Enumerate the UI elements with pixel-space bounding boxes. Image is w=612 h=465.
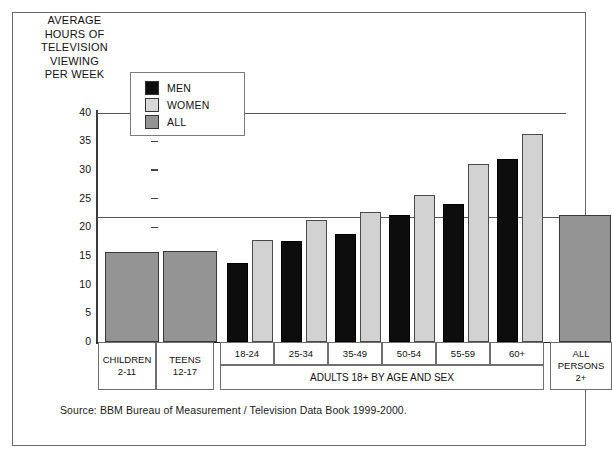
cat-children-line: 2-11 (118, 366, 136, 378)
y-tick-label: 0 (58, 335, 91, 347)
bar-all-teens (163, 251, 217, 342)
legend-label-all: ALL (167, 116, 186, 128)
plot-area (97, 113, 566, 342)
cat-all-persons-line: PERSONS (558, 360, 604, 372)
bar-men-a1824 (227, 263, 248, 342)
y-tick-label: 15 (58, 249, 91, 261)
cat-all-persons: ALLPERSONS2+ (550, 342, 612, 390)
y-tick-label: 10 (58, 278, 91, 290)
legend-swatch-women-icon (145, 98, 159, 112)
cat-all-persons-line: ALL (573, 348, 590, 360)
cat-teens-line: 12-17 (173, 366, 197, 378)
cat-children: CHILDREN2-11 (98, 342, 156, 390)
y-tick-label: 20 (58, 220, 91, 232)
source-note: Source: BBM Bureau of Measurement / Tele… (60, 404, 407, 416)
cat-age-2534: 25-34 (274, 342, 328, 365)
bar-women-a2534 (306, 220, 327, 342)
bar-women-a60 (522, 134, 543, 342)
y-axis-tick-group: 4035302520151050 (58, 0, 98, 465)
cat-age-3549: 35-49 (328, 342, 382, 365)
chart-legend: MEN WOMEN ALL (130, 72, 245, 136)
category-label-area: CHILDREN2-11TEENS12-1718-2425-3435-4950-… (96, 342, 567, 390)
legend-item-men: MEN (145, 79, 244, 96)
legend-swatch-men-icon (145, 81, 159, 95)
cat-age-5559: 55-59 (436, 342, 490, 365)
bar-all-allpers (559, 215, 611, 342)
bar-men-a60 (497, 159, 518, 342)
cat-teens: TEENS12-17 (156, 342, 214, 390)
legend-label-women: WOMEN (167, 99, 209, 111)
legend-item-women: WOMEN (145, 96, 244, 113)
bar-men-a5559 (443, 204, 464, 342)
cat-age-60+: 60+ (490, 342, 544, 365)
cat-adults-band: ADULTS 18+ BY AGE AND SEX (220, 365, 544, 390)
bar-women-a1824 (252, 240, 273, 342)
y-tick-label: 30 (58, 163, 91, 175)
bar-women-a5054 (414, 195, 435, 342)
legend-label-men: MEN (167, 82, 191, 94)
bar-women-a5559 (468, 164, 489, 342)
cat-teens-line: TEENS (169, 354, 201, 366)
legend-swatch-all-icon (145, 115, 159, 129)
cat-age-5054: 50-54 (382, 342, 436, 365)
bar-men-a2534 (281, 241, 302, 343)
bar-men-a5054 (389, 215, 410, 342)
bar-women-a3549 (360, 212, 381, 342)
y-tick-label: 25 (58, 192, 91, 204)
bar-all-children (105, 252, 159, 342)
y-tick-label: 5 (58, 306, 91, 318)
legend-item-all: ALL (145, 113, 244, 130)
y-tick-label: 40 (58, 106, 91, 118)
bar-men-a3549 (335, 234, 356, 342)
cat-all-persons-line: 2+ (576, 372, 587, 384)
cat-children-line: CHILDREN (103, 354, 152, 366)
cat-age-1824: 18-24 (220, 342, 274, 365)
y-tick-label: 35 (58, 134, 91, 146)
